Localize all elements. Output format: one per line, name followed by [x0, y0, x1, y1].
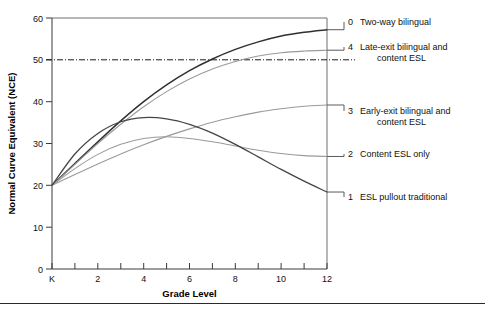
data-curves [52, 30, 327, 192]
legend-label-4-cont: content ESL [377, 53, 426, 63]
legend-key-4: 4 [348, 42, 353, 52]
y-tick-label-30: 30 [33, 139, 43, 149]
leader-line-1 [327, 192, 344, 197]
y-axis-tick-labels: 0 10 20 30 40 50 60 [33, 14, 43, 275]
x-axis-title: Grade Level [162, 288, 216, 299]
frame-top-right [52, 18, 327, 269]
legend-label-3: Early-exit bilingual and [360, 106, 451, 116]
curve-2 [52, 137, 327, 186]
legend-label-0: Two-way bilingual [360, 17, 431, 27]
legend-key-1: 1 [348, 192, 353, 202]
y-tick-label-60: 60 [33, 14, 43, 24]
y-axis-title: Normal Curve Equivalent (NCE) [6, 73, 17, 215]
x-tick-label-10: 10 [276, 274, 286, 284]
plot-frame [52, 18, 327, 269]
y-tick-label-40: 40 [33, 97, 43, 107]
legend-label-4: Late-exit bilingual and [360, 42, 448, 52]
legend-label-1: ESL pullout traditional [360, 192, 447, 202]
chart-figure: 0 10 20 30 40 50 60 K 2 4 [0, 0, 485, 319]
legend-key-3: 3 [348, 106, 353, 116]
leader-line-2 [327, 154, 344, 156]
x-tick-label-4: 4 [141, 274, 146, 284]
y-tick-label-0: 0 [38, 265, 43, 275]
y-tick-label-50: 50 [33, 55, 43, 65]
legend-key-2: 2 [348, 149, 353, 159]
chart-svg: 0 10 20 30 40 50 60 K 2 4 [0, 0, 485, 319]
x-tick-label-K: K [49, 274, 55, 284]
legend-key-0: 0 [348, 17, 353, 27]
legend-label-3-cont: content ESL [377, 117, 426, 127]
y-axis-ticks [46, 18, 52, 269]
axes [52, 18, 327, 269]
leader-line-3 [327, 105, 344, 111]
leader-line-0 [327, 22, 344, 30]
leader-line-4 [327, 47, 344, 50]
y-tick-label-20: 20 [33, 181, 43, 191]
x-tick-label-2: 2 [95, 274, 100, 284]
legend-leader-lines [327, 22, 344, 197]
chart-legend: 0Two-way bilingual4Late-exit bilingual a… [348, 17, 451, 202]
x-axis-tick-labels: K 2 4 6 8 10 12 [49, 274, 332, 284]
x-axis-ticks [52, 263, 327, 269]
x-tick-label-6: 6 [187, 274, 192, 284]
y-tick-label-10: 10 [33, 223, 43, 233]
x-tick-label-8: 8 [233, 274, 238, 284]
legend-label-2: Content ESL only [360, 149, 430, 159]
x-tick-label-12: 12 [322, 274, 332, 284]
curve-0 [52, 30, 327, 186]
